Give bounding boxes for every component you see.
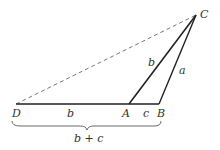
segment-ac — [129, 15, 196, 104]
point-label-c: C — [200, 8, 209, 21]
edge-label-da: b — [67, 107, 74, 120]
brace — [12, 121, 161, 130]
point-label-d: D — [11, 107, 21, 120]
triangle-diagram: C D A B b a b c b + c — [0, 0, 220, 150]
edge-label-ac: b — [148, 56, 155, 69]
point-label-b: B — [156, 107, 165, 120]
point-label-a: A — [121, 107, 130, 120]
segment-dc-dashed — [16, 15, 196, 104]
segment-bc — [159, 15, 196, 104]
brace-label: b + c — [74, 132, 103, 145]
edge-label-ab: c — [143, 107, 149, 120]
edge-label-bc: a — [179, 64, 186, 77]
